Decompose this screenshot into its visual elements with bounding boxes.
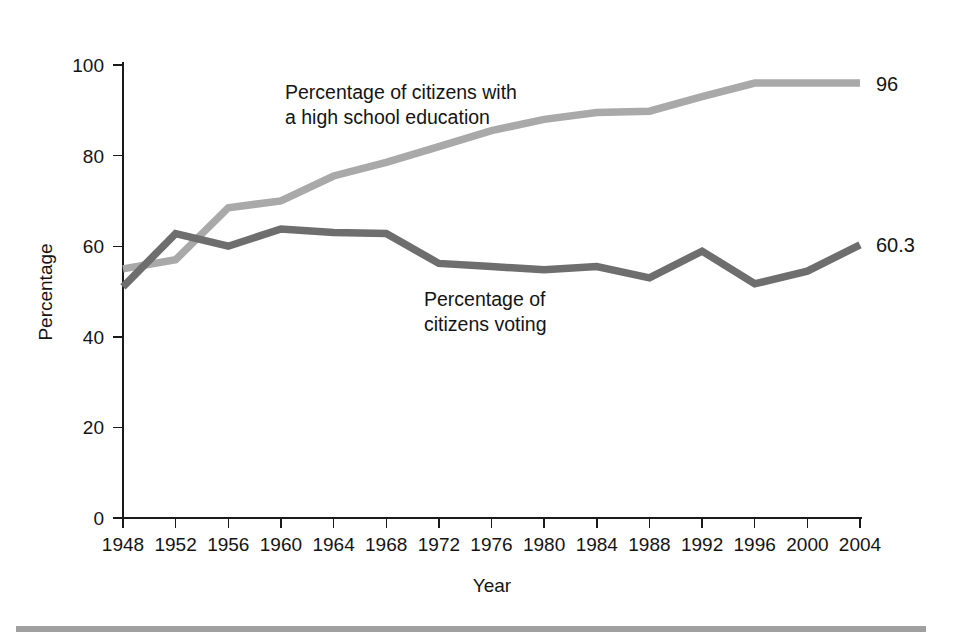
chart-figure: 0 20 40 60 80 100 Percentage 1948 1 — [0, 0, 955, 642]
education-annotation-line2: a high school education — [285, 106, 490, 128]
x-tick-label-2004: 2004 — [839, 534, 882, 555]
y-tick-label-40: 40 — [83, 327, 104, 348]
bottom-divider-rule — [16, 626, 926, 632]
x-tick-label-1996: 1996 — [734, 534, 776, 555]
line-chart: 0 20 40 60 80 100 Percentage 1948 1 — [0, 0, 955, 642]
x-tick-label-1980: 1980 — [523, 534, 565, 555]
x-tick-label-1988: 1988 — [628, 534, 670, 555]
x-tick-label-1952: 1952 — [154, 534, 196, 555]
y-tick-label-60: 60 — [83, 236, 104, 257]
x-tick-label-1964: 1964 — [312, 534, 355, 555]
x-tick-label-1976: 1976 — [470, 534, 512, 555]
x-tick-label-1948: 1948 — [102, 534, 144, 555]
y-tick-label-100: 100 — [72, 55, 104, 76]
x-tick-label-1956: 1956 — [207, 534, 249, 555]
y-tick-label-80: 80 — [83, 146, 104, 167]
voting-annotation-line2: citizens voting — [424, 313, 546, 335]
x-tick-label-1960: 1960 — [260, 534, 302, 555]
y-tick-label-0: 0 — [93, 508, 104, 529]
education-end-label: 96 — [876, 73, 898, 95]
voting-end-label: 60.3 — [876, 234, 915, 256]
y-axis-title: Percentage — [35, 243, 56, 340]
voting-annotation-line1: Percentage of — [424, 288, 546, 310]
y-tick-label-20: 20 — [83, 417, 104, 438]
x-tick-label-1984: 1984 — [576, 534, 619, 555]
x-tick-label-2000: 2000 — [786, 534, 828, 555]
x-tick-label-1968: 1968 — [365, 534, 407, 555]
x-tick-label-1992: 1992 — [681, 534, 723, 555]
x-axis-title: Year — [473, 575, 512, 596]
education-annotation-line1: Percentage of citizens with — [285, 81, 517, 103]
x-tick-label-1972: 1972 — [418, 534, 460, 555]
